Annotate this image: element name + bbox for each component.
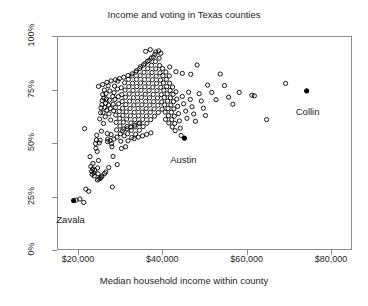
data-point (151, 92, 155, 96)
data-point (172, 114, 176, 118)
data-point (128, 99, 132, 103)
data-point (111, 154, 115, 158)
data-point (265, 118, 269, 122)
data-point (78, 197, 82, 201)
data-point (117, 116, 121, 120)
data-point (141, 117, 145, 121)
data-point (175, 97, 179, 101)
data-point (121, 113, 125, 117)
y-tick-label: 100% (26, 19, 36, 51)
data-points-layer (58, 37, 353, 251)
data-point (118, 124, 122, 128)
data-point (101, 82, 105, 86)
data-point (173, 121, 177, 125)
highlighted-data-point (304, 89, 309, 94)
data-point (122, 81, 126, 85)
data-point (125, 117, 129, 121)
data-point (114, 113, 118, 117)
data-point (98, 117, 102, 121)
data-point (147, 81, 151, 85)
data-point (134, 77, 138, 81)
y-tick-mark (52, 250, 57, 251)
plot-area (57, 36, 352, 250)
data-point (154, 74, 158, 78)
data-point (109, 79, 113, 83)
y-tick-mark (52, 36, 57, 37)
y-tick-mark (52, 197, 57, 198)
data-point (161, 81, 165, 85)
data-point (132, 110, 136, 114)
data-point (88, 155, 92, 159)
data-point (105, 140, 109, 144)
data-point (136, 114, 140, 118)
data-point (237, 90, 241, 94)
data-point (139, 95, 143, 99)
data-point (131, 96, 135, 100)
data-point (109, 132, 113, 136)
data-point (164, 70, 168, 74)
data-point (197, 92, 201, 96)
data-point (136, 106, 140, 110)
data-point (145, 121, 149, 125)
x-tick-label: $80,000 (315, 254, 348, 264)
data-point (143, 85, 147, 89)
data-point (143, 92, 147, 96)
data-point (184, 109, 188, 113)
data-point (193, 119, 197, 123)
data-point (190, 105, 194, 109)
data-point (120, 99, 124, 103)
data-point (147, 96, 151, 100)
data-point (218, 72, 222, 76)
data-point (155, 81, 159, 85)
data-point (155, 89, 159, 93)
data-point (124, 103, 128, 107)
data-point (128, 114, 132, 118)
point-label-collin: Collin (296, 106, 320, 117)
data-point (119, 146, 123, 150)
x-tick-label: $20,000 (62, 254, 95, 264)
y-tick-label: 50% (26, 126, 36, 158)
data-point (120, 92, 124, 96)
data-point (145, 132, 149, 136)
data-point (163, 110, 167, 114)
data-point (156, 103, 160, 107)
data-point (136, 99, 140, 103)
data-point (171, 85, 175, 89)
data-point (148, 48, 152, 52)
data-point (195, 63, 199, 67)
data-point (136, 135, 140, 139)
data-point (163, 117, 167, 121)
data-point (135, 92, 139, 96)
x-tick-label: $40,000 (146, 254, 179, 264)
data-point (162, 95, 166, 99)
data-point (152, 107, 156, 111)
data-point (155, 96, 159, 100)
data-point (139, 81, 143, 85)
highlighted-data-point (182, 136, 187, 141)
data-point (132, 103, 136, 107)
scatter-plot-figure: Income and voting in Texas counties Vote… (0, 0, 368, 306)
data-point (137, 128, 141, 132)
data-point (142, 70, 146, 74)
data-point (139, 88, 143, 92)
data-point (107, 165, 111, 169)
data-point (176, 104, 180, 108)
data-point (187, 90, 191, 94)
data-point (222, 83, 226, 87)
data-point (140, 103, 144, 107)
data-point (283, 81, 287, 85)
data-point (168, 65, 172, 69)
data-point (150, 78, 154, 82)
data-point (140, 110, 144, 114)
data-point (177, 119, 181, 123)
data-point (87, 189, 91, 193)
data-point (119, 139, 123, 143)
data-point (172, 107, 176, 111)
data-point (103, 115, 107, 119)
data-point (173, 129, 177, 133)
data-point (178, 126, 182, 130)
data-point (150, 70, 154, 74)
data-point (152, 114, 156, 118)
data-point (96, 84, 100, 88)
data-point (140, 134, 144, 138)
